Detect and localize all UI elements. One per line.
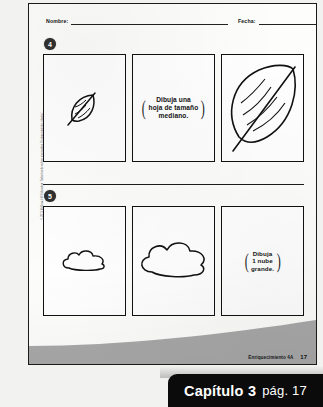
worksheet-screenshot: Nombre: Fecha: 4 [0,0,323,407]
footer: Enriquecimiento 4A 17 [248,354,307,360]
worksheet-sheet: Nombre: Fecha: 4 [28,3,317,365]
panel-small-cloud[interactable] [43,206,126,316]
exercise-5-panels: ( Dibuja 1 nube grande. ) [43,206,304,316]
worksheet-header: Nombre: Fecha: [46,19,302,31]
copyright-notice: © 2013 McGraw-Hill Education. Todos los … [41,106,44,226]
panel-instruction-leaf: ( Dibuja una hoja de tamaño mediano. ) [132,54,215,162]
exercise-5: 5 [43,190,304,316]
name-writing-line[interactable] [71,24,228,25]
bracket-left-icon: ( [244,252,248,270]
small-cloud-icon [57,246,113,276]
exercise-number-badge: 4 [44,38,56,50]
instruction-block: ( Dibuja una hoja de tamaño mediano. ) [138,96,208,120]
bracket-right-icon: ) [277,252,281,270]
panel-instruction-cloud: ( Dibuja 1 nube grande. ) [221,206,304,316]
medium-cloud-icon [136,239,212,283]
footer-label: Enriquecimiento 4A [248,355,293,360]
instruction-text: Dibuja 1 nube grande. [251,250,274,273]
date-label: Fecha: [238,19,256,25]
caption-chapter: Capítulo 3 [184,383,256,399]
small-leaf-icon [62,87,108,129]
large-leaf-icon [223,59,303,157]
date-writing-line[interactable] [259,24,316,25]
panel-medium-cloud[interactable] [132,206,215,316]
exercise-4-panels: ( Dibuja una hoja de tamaño mediano. ) [43,54,304,162]
panel-small-leaf[interactable] [43,54,126,162]
exercise-divider [43,184,304,185]
panel-large-leaf[interactable] [221,54,304,162]
bracket-right-icon: ) [201,99,205,117]
exercise-4: 4 ( [43,38,304,162]
exercise-number-badge: 5 [44,190,56,202]
instruction-block: ( Dibuja 1 nube grande. ) [241,250,285,273]
bracket-left-icon: ( [142,99,146,117]
caption-page: pág. 17 [262,383,307,398]
date-field[interactable]: Fecha: [238,19,316,25]
instruction-text: Dibuja una hoja de tamaño mediano. [149,96,199,120]
name-label: Nombre: [46,19,68,25]
footer-page-number: 17 [300,354,307,360]
caption-bar: Capítulo 3 pág. 17 [168,374,323,407]
name-field[interactable]: Nombre: [46,19,228,25]
